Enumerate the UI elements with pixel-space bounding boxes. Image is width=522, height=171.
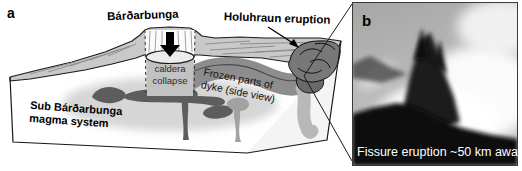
figure: a Bárðarbunga Holuhraun eruption caldera… (0, 0, 522, 171)
eruption-label: Holuhraun eruption (224, 10, 331, 26)
panel-a-diagram: a Bárðarbunga Holuhraun eruption caldera… (0, 0, 352, 171)
photo-caption: Fissure eruption ~50 km away (357, 145, 518, 159)
panel-b-label: b (362, 12, 371, 29)
caldera-label-line2: collapse (153, 75, 188, 86)
volcano-label: Bárðarbunga (107, 8, 180, 23)
panel-a-label: a (7, 5, 15, 21)
caldera-label-line1: caldera (154, 63, 186, 74)
panel-b-photo: b Fissure eruption ~50 km away (352, 2, 518, 166)
